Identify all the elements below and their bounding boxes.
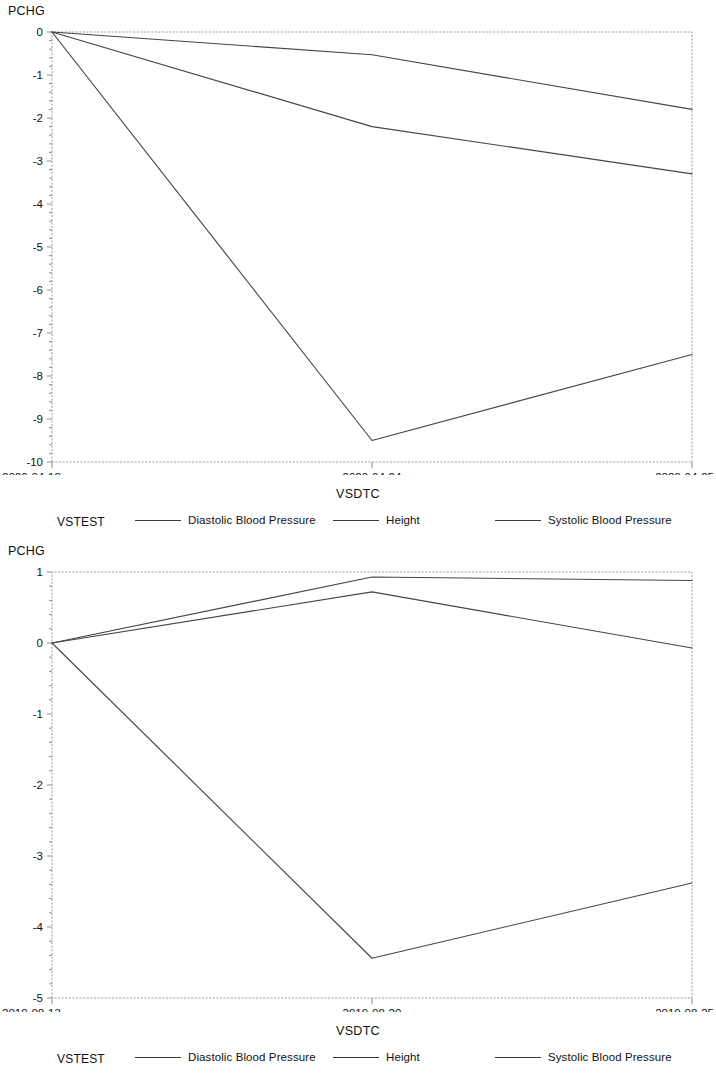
legend-entry-height[interactable]: Height xyxy=(333,1051,420,1063)
legend-line-icon xyxy=(333,1057,379,1058)
series-line-height xyxy=(52,577,692,643)
y-tick-label: -10 xyxy=(26,456,43,468)
y-tick-label: 0 xyxy=(37,637,43,649)
legend-entry-systolic-blood-pressure[interactable]: Systolic Blood Pressure xyxy=(495,514,672,526)
y-tick-label: -1 xyxy=(33,69,43,81)
x-tick-label: 2020-04-24 xyxy=(343,471,402,475)
chart-panel-bottom: PCHG 10-1-2-3-4-52019-08-132019-08-20201… xyxy=(0,540,716,1076)
x-tick-label: 2019-08-13 xyxy=(2,1007,61,1012)
y-tick-label: -5 xyxy=(33,241,43,253)
plot-area-top: 0-1-2-3-4-5-6-7-8-9-102020-04-182020-04-… xyxy=(0,0,716,475)
y-tick-label: -4 xyxy=(33,921,44,933)
legend-entry-label: Diastolic Blood Pressure xyxy=(188,1051,316,1063)
x-tick-label: 2019-08-25 xyxy=(655,1007,714,1012)
plot-frame xyxy=(52,32,692,462)
y-tick-label: -4 xyxy=(33,198,44,210)
legend-title: VSTEST xyxy=(57,1052,105,1066)
legend-entry-systolic-blood-pressure[interactable]: Systolic Blood Pressure xyxy=(495,1051,672,1063)
chart-panel-top: PCHG 0-1-2-3-4-5-6-7-8-9-102020-04-18202… xyxy=(0,0,716,540)
legend-title: VSTEST xyxy=(57,515,105,529)
legend-line-icon xyxy=(135,520,181,521)
legend-entry-label: Systolic Blood Pressure xyxy=(548,1051,672,1063)
x-axis-title: VSDTC xyxy=(0,1024,716,1038)
y-tick-label: -9 xyxy=(33,413,43,425)
y-tick-label: -6 xyxy=(33,284,43,296)
y-tick-label: -2 xyxy=(33,779,43,791)
series-line-systolic-blood-pressure xyxy=(52,643,692,958)
legend-entry-diastolic-blood-pressure[interactable]: Diastolic Blood Pressure xyxy=(135,514,316,526)
legend-entry-diastolic-blood-pressure[interactable]: Diastolic Blood Pressure xyxy=(135,1051,316,1063)
y-axis-title: PCHG xyxy=(8,544,45,558)
legend-line-icon xyxy=(495,1057,541,1058)
x-tick-label: 2019-08-20 xyxy=(343,1007,402,1012)
plot-area-bottom: 10-1-2-3-4-52019-08-132019-08-202019-08-… xyxy=(0,540,716,1012)
series-line-diastolic-blood-pressure xyxy=(52,32,692,174)
x-tick-label: 2020-04-25 xyxy=(655,471,714,475)
plot-frame xyxy=(52,572,692,998)
y-tick-label: -7 xyxy=(33,327,43,339)
legend-entry-height[interactable]: Height xyxy=(333,514,420,526)
series-line-height xyxy=(52,32,692,109)
legend-line-icon xyxy=(495,520,541,521)
x-axis-title: VSDTC xyxy=(0,487,716,501)
y-tick-label: -3 xyxy=(33,850,43,862)
legend-entry-label: Height xyxy=(386,514,420,526)
x-tick-label: 2020-04-18 xyxy=(2,471,61,475)
legend-top: VSTEST Diastolic Blood Pressure Height S… xyxy=(0,512,716,534)
legend-entry-label: Systolic Blood Pressure xyxy=(548,514,672,526)
chart-page: PCHG 0-1-2-3-4-5-6-7-8-9-102020-04-18202… xyxy=(0,0,716,1076)
y-tick-label: -2 xyxy=(33,112,43,124)
legend-bottom: VSTEST Diastolic Blood Pressure Height S… xyxy=(0,1049,716,1071)
legend-entry-label: Diastolic Blood Pressure xyxy=(188,514,316,526)
y-tick-label: 1 xyxy=(37,566,43,578)
y-axis-title: PCHG xyxy=(8,4,45,18)
series-line-diastolic-blood-pressure xyxy=(52,592,692,648)
y-tick-label: -8 xyxy=(33,370,43,382)
legend-line-icon xyxy=(333,520,379,521)
y-tick-label: -1 xyxy=(33,708,43,720)
y-tick-label: 0 xyxy=(37,26,43,38)
legend-entry-label: Height xyxy=(386,1051,420,1063)
legend-line-icon xyxy=(135,1057,181,1058)
y-tick-label: -5 xyxy=(33,992,43,1004)
y-tick-label: -3 xyxy=(33,155,43,167)
